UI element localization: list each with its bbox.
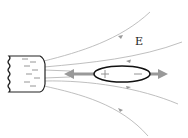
field-line-arrow-icon: [118, 35, 123, 39]
field-line-center-stub: [44, 77, 70, 78]
charged-body: [8, 56, 45, 92]
field-line-arrow-icon: [126, 60, 131, 64]
field-label: E: [135, 35, 143, 48]
dipole: [94, 66, 150, 82]
field-diagram: E: [0, 0, 188, 138]
field-line-center-stub: [44, 70, 70, 71]
arrow-right-icon: [158, 69, 168, 79]
field-line-lower-middle: [44, 81, 178, 104]
field-line-upper-middle: [44, 42, 182, 67]
field-line-bottom: [44, 86, 148, 136]
